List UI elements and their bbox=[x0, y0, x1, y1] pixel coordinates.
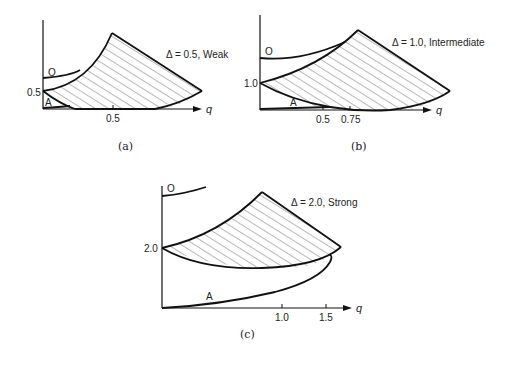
x-tick-label: 0.75 bbox=[341, 114, 361, 125]
x-tick-label: 1.0 bbox=[275, 312, 289, 323]
x-axis-arrow-icon bbox=[423, 107, 432, 113]
panel-caption: (b) bbox=[351, 140, 367, 153]
panel-caption: (a) bbox=[118, 140, 133, 153]
panel-b: 1.0 0.5 0.75 q O A Δ = 1.0, Intermediate… bbox=[244, 15, 485, 153]
x-tick-label: 0.5 bbox=[106, 113, 120, 124]
x-tick-label: 1.5 bbox=[319, 312, 333, 323]
curve-a-label: A bbox=[206, 291, 213, 302]
x-axis-label: q bbox=[356, 302, 363, 314]
y-tick-label: 0.5 bbox=[27, 87, 41, 98]
curve-o-label: O bbox=[265, 46, 273, 57]
regime-annotation: Δ = 2.0, Strong bbox=[291, 197, 357, 208]
curve-o-label: O bbox=[167, 183, 175, 194]
curve-o-label: O bbox=[48, 67, 56, 78]
x-axis-label: q bbox=[436, 104, 443, 116]
curve-a-label: A bbox=[45, 97, 52, 108]
regime-annotation: Δ = 1.0, Intermediate bbox=[392, 37, 485, 48]
regime-annotation: Δ = 0.5, Weak bbox=[166, 49, 229, 60]
x-axis-label: q bbox=[206, 103, 213, 115]
curve-a-label: A bbox=[290, 97, 297, 108]
panel-a: 0.5 0.5 q O A Δ = 0.5, Weak (a) bbox=[27, 20, 229, 153]
panel-c: 2.0 1.0 1.5 q O A Δ = 2.0, Strong (c) bbox=[144, 183, 363, 341]
panel-caption: (c) bbox=[240, 328, 255, 341]
hatched-region bbox=[43, 33, 202, 109]
x-tick-label: 0.5 bbox=[316, 114, 330, 125]
x-axis-arrow-icon bbox=[193, 106, 202, 112]
x-axis-arrow-icon bbox=[343, 305, 352, 311]
figure: 0.5 0.5 q O A Δ = 0.5, Weak (a) 1.0 0.5 … bbox=[0, 0, 511, 368]
y-tick-label: 1.0 bbox=[244, 78, 258, 89]
y-tick-label: 2.0 bbox=[144, 243, 158, 254]
